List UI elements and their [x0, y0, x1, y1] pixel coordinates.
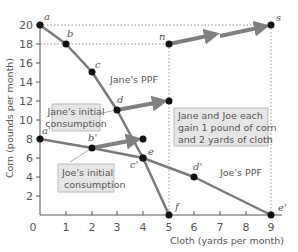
- x-tick-7: 7: [217, 221, 224, 234]
- x-tick-4: 4: [140, 221, 147, 234]
- y-tick-18: 18: [19, 38, 33, 51]
- x-tick-labels: 0 1 2 3 4 5 6 7 8 9: [30, 221, 275, 234]
- x-tick-2: 2: [89, 221, 96, 234]
- gain-box: Jane and Joe each gain 1 pound of corn a…: [174, 108, 277, 146]
- point-a-prime: [37, 136, 44, 143]
- point-a: [37, 22, 44, 29]
- joe-gain-arrow: [92, 140, 134, 148]
- y-tick-2: 2: [26, 190, 33, 203]
- point-d: [114, 107, 121, 114]
- label-b: b: [67, 28, 73, 39]
- svg-text:Jane's initial: Jane's initial: [46, 106, 104, 117]
- y-tick-labels: 2 4 6 8 10 12 14 16 18 20: [19, 19, 33, 203]
- label-d-prime: d': [193, 161, 202, 172]
- x-tick-6: 6: [191, 221, 198, 234]
- x-tick-9: 9: [268, 221, 275, 234]
- n-arrow-1: [169, 35, 212, 44]
- svg-text:consumption: consumption: [45, 118, 107, 129]
- label-f: f: [174, 201, 181, 212]
- point-c-prime: [140, 155, 147, 162]
- label-e: e: [148, 146, 154, 157]
- label-d: d: [117, 94, 123, 105]
- y-tick-14: 14: [19, 76, 33, 89]
- joe-initial-box: Joe's initial consumption: [58, 164, 126, 192]
- jane-ppf-label: Jane's PPF: [109, 74, 158, 85]
- label-b-prime: b': [88, 132, 97, 143]
- y-axis-title: Corn (pounds per month): [4, 58, 15, 178]
- point-d-prime: [191, 174, 198, 181]
- jane-gain-arrow: [117, 102, 160, 110]
- y-tick-8: 8: [26, 133, 33, 146]
- label-e-prime: e': [278, 202, 287, 213]
- point-joe-new: [140, 136, 147, 143]
- x-tick-3: 3: [114, 221, 121, 234]
- ppf-chart: 0 1 2 3 4 5 6 7 8 9 2 4 6 8 10 12 14 16 …: [0, 0, 298, 252]
- svg-text:Joe's initial: Joe's initial: [61, 167, 113, 178]
- x-tick-0: 0: [30, 221, 37, 234]
- joe-box-connector: [70, 148, 92, 162]
- point-s: [268, 22, 275, 29]
- point-jane-new: [166, 98, 173, 105]
- label-a: a: [44, 11, 50, 22]
- label-c-prime: c': [130, 159, 138, 170]
- joe-ppf-label: Joe's PPF: [219, 167, 262, 178]
- y-tick-20: 20: [19, 19, 33, 32]
- label-c: c: [95, 59, 101, 70]
- point-f: [166, 212, 173, 219]
- x-tick-5: 5: [166, 221, 173, 234]
- svg-text:and 2 yards of cloth: and 2 yards of cloth: [178, 134, 273, 145]
- y-tick-12: 12: [19, 95, 33, 108]
- svg-text:Jane and Joe each: Jane and Joe each: [177, 110, 263, 121]
- point-b: [63, 41, 70, 48]
- point-n: [166, 41, 173, 48]
- y-tick-6: 6: [26, 152, 33, 165]
- y-tick-16: 16: [19, 57, 33, 70]
- point-b-prime: [89, 145, 96, 152]
- y-tick-4: 4: [26, 171, 33, 184]
- x-axis-title: Cloth (yards per month): [170, 235, 284, 246]
- n-arrow-2: [220, 27, 262, 36]
- y-tick-10: 10: [19, 114, 33, 127]
- label-n: n: [159, 31, 165, 42]
- label-s: s: [276, 12, 281, 23]
- point-e-prime: [268, 212, 275, 219]
- jane-initial-box: Jane's initial consumption: [45, 104, 107, 131]
- x-tick-1: 1: [63, 221, 70, 234]
- x-tick-8: 8: [243, 221, 250, 234]
- svg-text:consumption: consumption: [64, 179, 126, 190]
- svg-text:gain 1 pound of corn: gain 1 pound of corn: [178, 122, 277, 133]
